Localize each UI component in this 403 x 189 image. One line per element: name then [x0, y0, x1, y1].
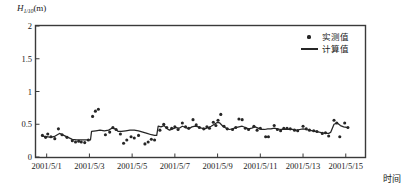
measured-value-point — [293, 129, 296, 132]
measured-value-point — [321, 132, 324, 135]
measured-value-point — [296, 129, 299, 132]
measured-value-point — [267, 135, 270, 138]
measured-value-point — [259, 127, 262, 130]
measured-value-point — [216, 119, 219, 122]
measured-value-point — [264, 135, 267, 138]
measured-value-point — [83, 141, 86, 144]
measured-value-point — [346, 126, 349, 129]
measured-value-point — [165, 126, 168, 129]
measured-value-point — [173, 125, 176, 128]
measured-value-point — [143, 142, 146, 145]
measured-value-point — [244, 127, 247, 130]
line-marker-icon — [300, 48, 318, 50]
y-tick-label: 2 — [2, 21, 32, 31]
measured-value-point — [130, 135, 133, 138]
measured-value-point — [252, 125, 255, 128]
measured-value-point — [181, 121, 184, 124]
y-tick-label: 1 — [2, 87, 32, 97]
measured-value-point — [237, 117, 240, 120]
measured-value-point — [191, 118, 194, 121]
measured-value-point — [53, 137, 56, 140]
measured-value-point — [150, 138, 153, 141]
measured-value-point — [119, 133, 122, 136]
measured-value-point — [153, 138, 156, 141]
measured-value-point — [212, 121, 215, 124]
measured-value-point — [315, 130, 318, 133]
measured-value-point — [125, 138, 128, 141]
y-tick-label: 0.5 — [2, 119, 32, 129]
x-tick-label: 2001/5/15 — [329, 161, 363, 171]
measured-value-point — [335, 121, 338, 124]
measured-value-point — [343, 121, 346, 124]
measured-value-point — [97, 108, 100, 111]
measured-value-point — [302, 125, 305, 128]
x-tick-label: 2001/5/13 — [286, 161, 320, 171]
measured-value-point — [276, 128, 279, 131]
measured-value-point — [94, 110, 97, 113]
measured-value-point — [234, 126, 237, 129]
measured-value-point — [71, 139, 74, 142]
measured-value-point — [170, 127, 173, 130]
measured-value-point — [308, 129, 311, 132]
measured-value-point — [312, 129, 315, 132]
measured-value-point — [108, 131, 111, 134]
measured-value-point — [111, 126, 114, 129]
measured-value-point — [115, 128, 118, 131]
measured-value-point — [137, 134, 140, 137]
x-tick-label: 2001/5/1 — [32, 161, 62, 171]
y-tick-label: 0 — [2, 152, 32, 162]
measured-value-point — [222, 125, 225, 128]
measured-value-point — [247, 128, 250, 131]
wave-height-chart-figure: H1/10(m) 时间 00.511.52 2001/5/12001/5/320… — [0, 0, 403, 189]
measured-value-point — [74, 140, 77, 143]
measured-value-point — [282, 127, 285, 130]
measured-value-point — [198, 126, 201, 129]
measured-value-point — [41, 134, 44, 137]
measured-value-point — [177, 128, 180, 131]
measured-value-point — [324, 131, 327, 134]
measured-value-point — [57, 127, 60, 130]
measured-value-point — [122, 142, 125, 145]
measured-value-point — [273, 124, 276, 127]
measured-value-point — [91, 115, 94, 118]
measured-value-point — [226, 127, 229, 130]
x-tick-label: 2001/5/3 — [74, 161, 104, 171]
measured-value-point — [104, 133, 107, 136]
measured-value-point — [231, 128, 234, 131]
measured-value-point — [49, 135, 52, 138]
measured-value-point — [80, 140, 83, 143]
measured-value-point — [338, 135, 341, 138]
measured-value-point — [184, 125, 187, 128]
x-tick-label: 2001/5/9 — [202, 161, 232, 171]
measured-value-point — [44, 136, 47, 139]
x-tick-label: 2001/5/7 — [160, 161, 190, 171]
legend-item-measured: 实测值 — [300, 31, 362, 43]
measured-value-point — [147, 140, 150, 143]
measured-value-point — [46, 133, 49, 136]
measured-value-point — [219, 113, 222, 116]
measured-value-point — [332, 119, 335, 122]
measured-value-point — [158, 129, 161, 132]
measured-value-point — [195, 123, 198, 126]
legend-item-calculated: 计算值 — [300, 43, 362, 55]
x-tick-label: 2001/5/5 — [117, 161, 147, 171]
measured-value-point — [133, 136, 136, 139]
measured-value-point — [289, 127, 292, 130]
measured-value-point — [285, 127, 288, 130]
chart-legend: 实测值 计算值 — [300, 31, 362, 55]
measured-value-point — [241, 118, 244, 121]
measured-value-point — [187, 127, 190, 130]
measured-value-point — [61, 133, 64, 136]
measured-value-point — [214, 124, 217, 127]
measured-value-point — [327, 134, 330, 137]
measured-value-point — [65, 136, 68, 139]
measured-value-point — [162, 123, 165, 126]
measured-value-point — [256, 129, 259, 132]
dot-marker-icon — [300, 35, 318, 38]
y-tick-label: 1.5 — [2, 54, 32, 64]
measured-value-point — [305, 127, 308, 130]
measured-value-point — [87, 138, 90, 141]
legend-label-calculated: 计算值 — [322, 44, 349, 55]
x-tick-label: 2001/5/11 — [243, 161, 277, 171]
measured-value-point — [202, 127, 205, 130]
